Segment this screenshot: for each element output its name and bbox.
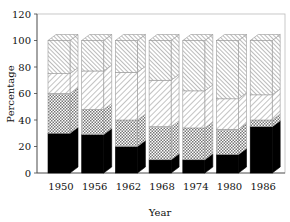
bar-segment-side (137, 35, 145, 73)
bar-1956 (82, 35, 112, 174)
bar-segment-side (205, 122, 213, 160)
bar-segment-4 (115, 41, 137, 73)
bar-segment-2 (48, 94, 70, 134)
bar-segment-3 (217, 99, 239, 129)
bar-segment-2 (82, 109, 104, 134)
bar-segment-side (70, 88, 78, 134)
bar-segment-side (137, 66, 145, 120)
bar-1968 (149, 35, 179, 174)
bar-segment-side (205, 85, 213, 128)
bar-segment-side (205, 35, 213, 91)
bar-segment-3 (115, 72, 137, 120)
bar-segment-side (70, 127, 78, 173)
bar-segment-side (272, 35, 280, 95)
x-tick-label: 1974 (183, 181, 208, 192)
bar-segment-1 (250, 127, 272, 173)
bar-segment-side (104, 129, 112, 173)
x-tick-label: 1956 (82, 181, 107, 192)
x-axis-ticks: 1950195619621968197419801986 (48, 181, 276, 192)
y-tick-label: 80 (18, 62, 31, 73)
bar-segment-4 (82, 41, 104, 71)
bar-segment-3 (183, 91, 205, 128)
bar-segment-3 (149, 80, 171, 126)
y-axis-title: Percentage (5, 65, 16, 122)
bar-1986 (250, 35, 280, 174)
bar-segment-4 (183, 41, 205, 91)
bar-segment-1 (115, 147, 137, 174)
bar-segment-side (239, 35, 247, 99)
bar-segment-1 (183, 160, 205, 173)
bar-segment-side (171, 35, 179, 81)
x-tick-label: 1968 (149, 181, 174, 192)
bar-segment-1 (217, 154, 239, 173)
bar-segment-4 (217, 41, 239, 99)
bar-segment-2 (149, 127, 171, 160)
bar-segment-side (171, 74, 179, 126)
x-axis-title: Year (148, 207, 172, 218)
bar-segment-2 (183, 128, 205, 160)
y-tick-label: 20 (18, 141, 31, 152)
y-tick-label: 60 (18, 88, 31, 99)
bar-segment-2 (250, 120, 272, 127)
bars-group (48, 35, 280, 174)
x-tick-label: 1950 (48, 181, 73, 192)
bar-segment-2 (217, 129, 239, 154)
bar-segment-side (70, 35, 78, 74)
bar-segment-side (104, 65, 112, 109)
bar-segment-side (272, 121, 280, 173)
x-tick-label: 1980 (217, 181, 242, 192)
bar-1974 (183, 35, 213, 174)
bar-segment-3 (48, 74, 70, 94)
bar-1980 (217, 35, 247, 174)
x-tick-label: 1986 (250, 181, 275, 192)
bar-segment-1 (82, 135, 104, 173)
y-tick-label: 0 (25, 168, 31, 179)
bar-segment-2 (115, 120, 137, 147)
bar-1950 (48, 35, 78, 174)
bar-segment-4 (149, 41, 171, 81)
bar-segment-4 (250, 41, 272, 95)
bar-segment-3 (82, 71, 104, 109)
bar-segment-4 (48, 41, 70, 74)
bar-segment-side (171, 121, 179, 160)
bar-segment-1 (48, 133, 70, 173)
y-tick-label: 40 (18, 115, 31, 126)
x-tick-label: 1962 (116, 181, 141, 192)
bar-1962 (115, 35, 145, 174)
y-tick-label: 100 (12, 35, 31, 46)
stacked-bar-chart: 020406080100120 195019561962196819741980… (0, 0, 290, 222)
bar-segment-3 (250, 95, 272, 120)
bar-segment-1 (149, 160, 171, 173)
y-tick-label: 120 (12, 9, 31, 20)
